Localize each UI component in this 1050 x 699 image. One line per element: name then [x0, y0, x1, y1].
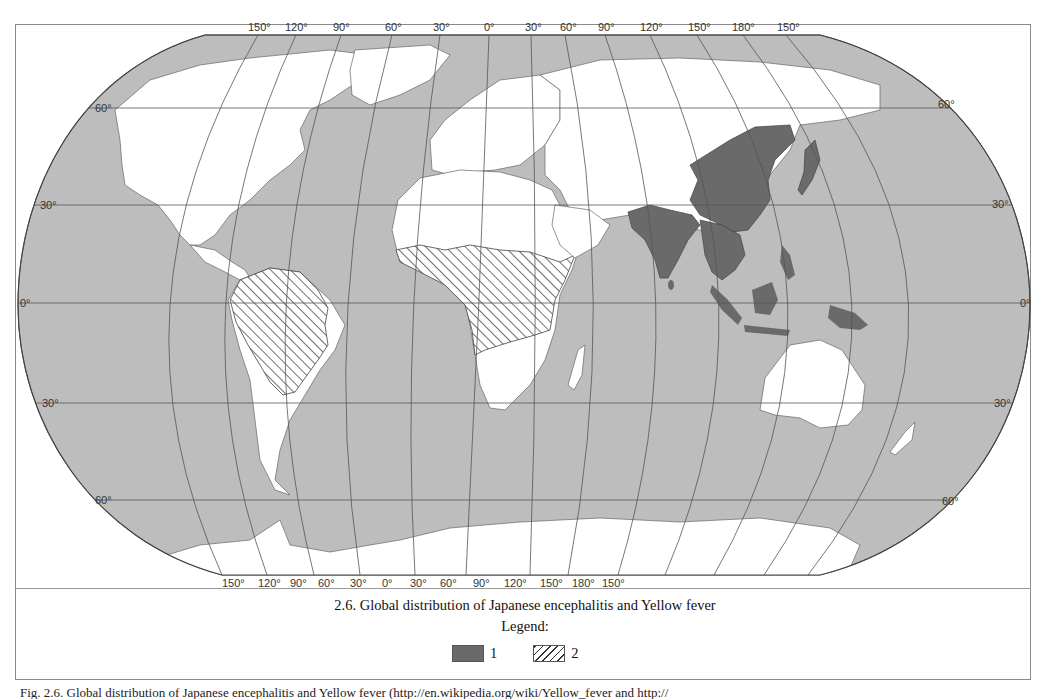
legend-key: 1: [490, 645, 497, 662]
svg-text:60°: 60°: [385, 21, 402, 33]
world-map: 150° 120° 90° 60° 30° 0° 30° 60° 90° 120…: [0, 0, 1050, 699]
svg-text:180°: 180°: [572, 577, 595, 589]
svg-text:150°: 150°: [248, 21, 271, 33]
legend: 1 2: [452, 645, 615, 662]
solid-swatch-icon: [452, 645, 484, 662]
svg-text:30°: 30°: [433, 21, 450, 33]
svg-text:60°: 60°: [440, 577, 457, 589]
svg-text:60°: 60°: [318, 577, 335, 589]
svg-text:0°: 0°: [382, 577, 393, 589]
svg-text:90°: 90°: [290, 577, 307, 589]
svg-text:30°: 30°: [410, 577, 427, 589]
svg-text:30°: 30°: [994, 397, 1011, 409]
svg-text:120°: 120°: [258, 577, 281, 589]
svg-text:30°: 30°: [525, 21, 542, 33]
svg-text:60°: 60°: [95, 102, 112, 114]
legend-item-yellow-fever: 2: [533, 645, 578, 662]
svg-text:90°: 90°: [473, 577, 490, 589]
svg-text:150°: 150°: [777, 21, 800, 33]
legend-item-japanese-encephalitis: 1: [452, 645, 497, 662]
svg-text:60°: 60°: [938, 98, 955, 110]
legend-key: 2: [571, 645, 578, 662]
hatch-swatch-icon: [533, 645, 565, 662]
svg-text:90°: 90°: [333, 21, 350, 33]
svg-text:30°: 30°: [42, 397, 59, 409]
svg-text:60°: 60°: [95, 494, 112, 506]
sri-lanka-je-zone: [668, 280, 674, 290]
bottom-longitude-labels: 150° 120° 90° 60° 30° 0° 30° 60° 90° 120…: [222, 577, 625, 589]
svg-text:150°: 150°: [688, 21, 711, 33]
svg-text:150°: 150°: [222, 577, 245, 589]
svg-text:150°: 150°: [602, 577, 625, 589]
top-longitude-labels: 150° 120° 90° 60° 30° 0° 30° 60° 90° 120…: [248, 21, 800, 33]
svg-text:150°: 150°: [540, 577, 563, 589]
legend-title: Legend:: [0, 618, 1050, 635]
svg-text:30°: 30°: [992, 198, 1009, 210]
svg-text:60°: 60°: [942, 495, 959, 507]
svg-text:120°: 120°: [285, 21, 308, 33]
svg-text:180°: 180°: [732, 21, 755, 33]
svg-text:120°: 120°: [504, 577, 527, 589]
svg-text:0°: 0°: [484, 21, 495, 33]
svg-text:30°: 30°: [40, 199, 57, 211]
svg-text:0°: 0°: [20, 297, 31, 309]
svg-text:30°: 30°: [350, 577, 367, 589]
svg-text:0°: 0°: [1020, 297, 1031, 309]
svg-text:120°: 120°: [640, 21, 663, 33]
svg-text:60°: 60°: [560, 21, 577, 33]
figure-caption: 2.6. Global distribution of Japanese enc…: [0, 597, 1050, 614]
source-line: Fig. 2.6. Global distribution of Japanes…: [20, 685, 1050, 699]
svg-text:90°: 90°: [598, 21, 615, 33]
